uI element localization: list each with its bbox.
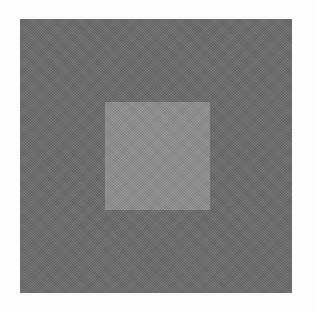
contrast-figure xyxy=(0,0,314,313)
light-gray-center-square xyxy=(105,102,210,210)
